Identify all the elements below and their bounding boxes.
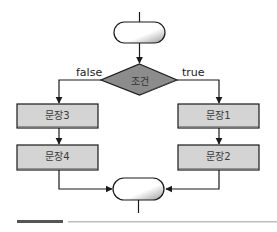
true-label: true	[182, 67, 205, 79]
false-branch-line	[59, 80, 101, 103]
start-terminal	[114, 22, 165, 43]
end-terminal	[113, 178, 164, 200]
statement4-label: 문장4	[17, 145, 98, 169]
footer-rule-dark	[17, 220, 63, 223]
decision-label: 조건	[119, 73, 160, 88]
statement2-label: 문장2	[178, 145, 259, 169]
statement3-label: 문장3	[17, 104, 98, 128]
true-branch-line	[177, 80, 219, 103]
footer-rule-light	[68, 221, 277, 223]
false-label: false	[76, 67, 102, 79]
true-merge-line	[166, 170, 219, 189]
statement1-label: 문장1	[178, 104, 259, 128]
false-merge-line	[59, 170, 112, 189]
